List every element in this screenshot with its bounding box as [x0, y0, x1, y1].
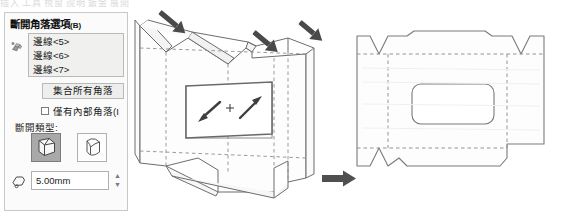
internal-corners-only-checkbox-row[interactable]: 僅有內部角落(I	[41, 105, 133, 119]
fillet-icon[interactable]	[77, 133, 107, 162]
spinner-down-icon[interactable]: ▼	[112, 180, 123, 189]
edge-select-icon	[9, 39, 25, 55]
sheet-metal-folded-model[interactable]	[128, 6, 338, 216]
selection-row: 邊線<5> 邊線<6> 邊線<7>	[9, 33, 125, 79]
collect-all-corners-button[interactable]: 集合所有角落	[42, 83, 124, 99]
list-item[interactable]: 邊線<7>	[33, 63, 123, 77]
edge-selection-listbox[interactable]: 邊線<5> 邊線<6> 邊線<7>	[28, 33, 124, 77]
panel-title-accelerator: (B)	[70, 21, 81, 30]
break-type-label: 斷開類型:	[15, 120, 58, 134]
break-distance-spinner[interactable]: ▲ ▼	[112, 171, 123, 190]
distance-icon	[11, 174, 27, 189]
internal-corners-only-label: 僅有內部角落(I	[53, 105, 119, 118]
panel-title-text: 斷開角落選項	[10, 18, 70, 30]
clipped-menu-text: 插入 工具 視窗 說明 鈑金 展開	[0, 0, 129, 8]
sheet-metal-flat-pattern[interactable]	[352, 8, 558, 212]
break-corner-options-panel: 斷開角落選項(B) 邊線<5> 邊線<6> 邊線<7> 集合所有角落 僅有內部角…	[4, 12, 128, 211]
break-distance-input[interactable]: 5.00mm	[31, 171, 109, 190]
internal-corners-only-checkbox[interactable]	[41, 107, 49, 115]
panel-title: 斷開角落選項(B)	[10, 16, 81, 31]
chamfer-icon[interactable]	[31, 133, 61, 162]
cutout-window	[412, 84, 494, 124]
break-distance-row: 5.00mm ▲ ▼	[11, 171, 126, 193]
spinner-up-icon[interactable]: ▲	[112, 171, 123, 180]
list-item[interactable]: 邊線<6>	[33, 49, 123, 63]
list-item[interactable]: 邊線<5>	[33, 35, 123, 49]
